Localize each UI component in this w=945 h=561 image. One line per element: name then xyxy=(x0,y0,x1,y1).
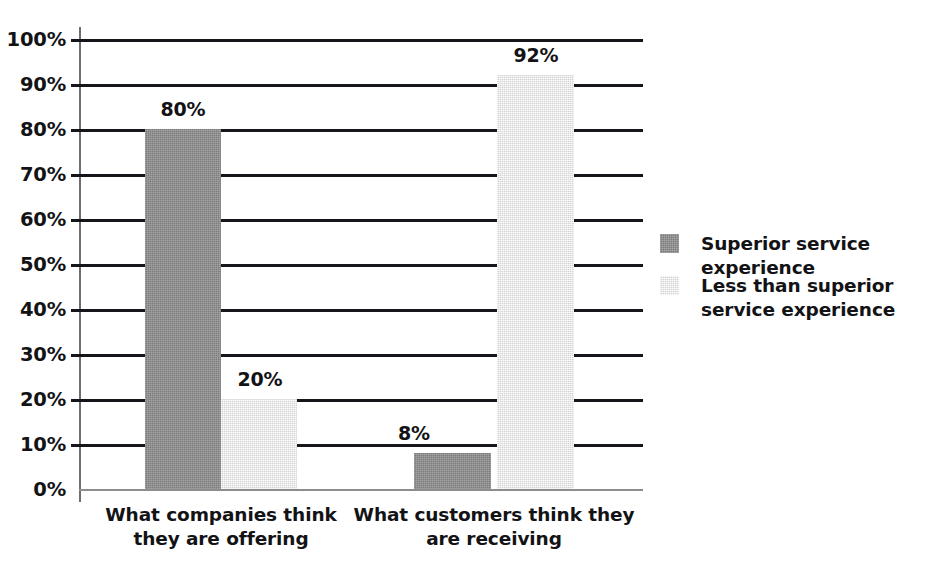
gridline-baseline-0 xyxy=(79,489,643,491)
bar-customers-superior xyxy=(414,453,491,489)
tick-mark-20 xyxy=(71,399,79,402)
y-tick-label-30: 30% xyxy=(2,343,66,366)
gridline-100 xyxy=(79,39,643,42)
y-tick-label-80: 80% xyxy=(2,118,66,141)
category-label-customers-line1: What customers think they xyxy=(354,503,635,527)
bar-companies-superior xyxy=(145,129,221,489)
tick-mark-50 xyxy=(71,264,79,267)
bar-customers-less-than-superior xyxy=(497,75,574,489)
y-tick-label-100: 100% xyxy=(2,28,66,51)
tick-mark-80 xyxy=(71,129,79,132)
tick-mark-10 xyxy=(71,444,79,447)
y-tick-label-10: 10% xyxy=(2,433,66,456)
bar-chart: 100% 90% 80% 70% 60% 50% 40% 30% 20% 10%… xyxy=(0,0,945,561)
legend-item-less-than-superior[interactable]: Less than superior service experience xyxy=(660,274,941,322)
tick-mark-30 xyxy=(71,354,79,357)
value-label-customers-less-than-superior: 92% xyxy=(514,44,559,66)
tick-mark-60 xyxy=(71,219,79,222)
y-axis-labels: 100% 90% 80% 70% 60% 50% 40% 30% 20% 10%… xyxy=(0,0,66,561)
legend-item-superior[interactable]: Superior service experience xyxy=(660,232,941,280)
legend-label-less-than-superior: Less than superior service experience xyxy=(701,274,941,322)
tick-mark-100 xyxy=(71,39,79,42)
y-tick-label-0: 0% xyxy=(2,478,66,501)
tick-mark-90 xyxy=(71,84,79,87)
y-tick-label-70: 70% xyxy=(2,163,66,186)
bar-companies-less-than-superior xyxy=(221,399,297,489)
category-label-companies-line2: they are offering xyxy=(105,527,336,551)
y-tick-label-60: 60% xyxy=(2,208,66,231)
y-tick-label-50: 50% xyxy=(2,253,66,276)
tick-mark-40 xyxy=(71,309,79,312)
legend-swatch-superior-icon xyxy=(660,234,679,253)
category-label-companies-line1: What companies think xyxy=(105,503,336,527)
y-tick-label-40: 40% xyxy=(2,298,66,321)
y-tick-label-90: 90% xyxy=(2,73,66,96)
category-label-customers-line2: are receiving xyxy=(354,527,635,551)
legend-swatch-less-than-superior-icon xyxy=(660,276,679,295)
y-tick-label-20: 20% xyxy=(2,388,66,411)
value-label-companies-less-than-superior: 20% xyxy=(238,368,283,390)
legend-label-superior: Superior service experience xyxy=(701,232,941,280)
value-label-companies-superior: 80% xyxy=(161,98,206,120)
category-label-customers: What customers think they are receiving xyxy=(354,503,635,550)
tick-mark-70 xyxy=(71,174,79,177)
value-label-customers-superior: 8% xyxy=(398,422,430,444)
category-label-companies: What companies think they are offering xyxy=(105,503,336,550)
